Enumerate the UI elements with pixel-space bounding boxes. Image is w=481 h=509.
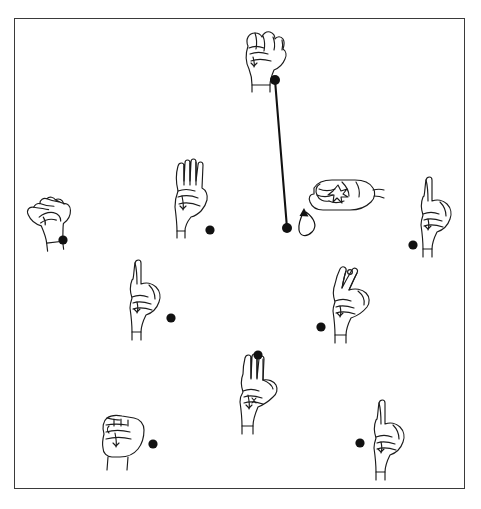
- node-dot-bottom-right-index: [355, 438, 364, 447]
- node-dot-bottom-three: [253, 350, 262, 359]
- node-dot-top-fist: [270, 75, 280, 85]
- hand-mid-left-index: [130, 260, 160, 340]
- node-dot-left-claw: [58, 235, 67, 244]
- hand-bottom-right-index: [374, 400, 404, 480]
- connector-line: [275, 80, 287, 228]
- node-dot-mid-left-index: [166, 313, 175, 322]
- hand-right-index: [421, 177, 451, 257]
- rotation-motion-arrow: [299, 208, 315, 236]
- hand-mid-right-two: [333, 267, 369, 343]
- hand-bottom-three: [240, 354, 277, 434]
- node-dot-mid-right-two: [316, 322, 325, 331]
- hand-left-claw: [25, 193, 79, 256]
- node-dot-upper-left-flat: [205, 225, 214, 234]
- figure-root: [0, 0, 481, 509]
- hand-top-fist: [246, 32, 286, 92]
- diagram-canvas: [0, 0, 481, 509]
- node-dot-right-twist: [282, 223, 292, 233]
- node-dot-bottom-left-fist: [148, 439, 157, 448]
- hand-right-twist: [309, 180, 384, 210]
- hand-upper-left-flat: [175, 159, 207, 238]
- node-dot-right-index: [408, 240, 417, 249]
- hand-bottom-left-fist: [103, 415, 144, 470]
